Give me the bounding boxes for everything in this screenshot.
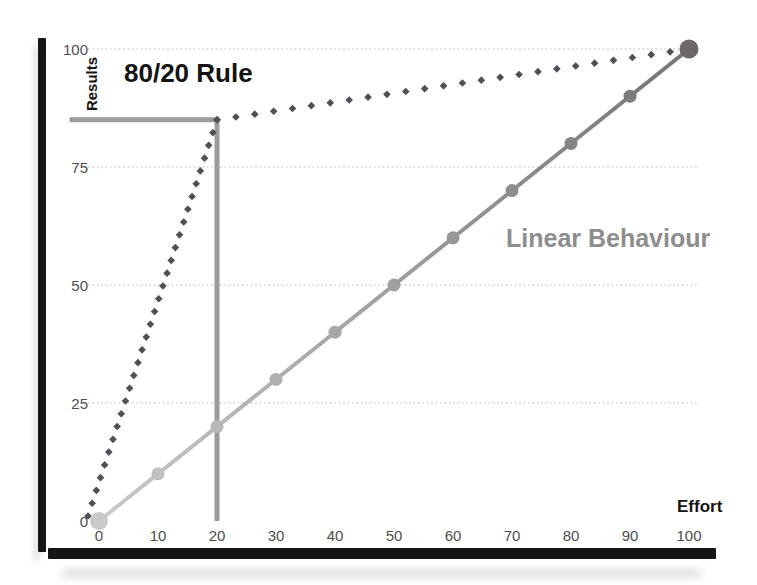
x-tick-label: 40 bbox=[327, 527, 344, 544]
chart-plot-area bbox=[0, 0, 757, 585]
x-axis-tick-labels: 0102030405060708090100 bbox=[0, 527, 757, 547]
y-tick-label: 50 bbox=[48, 277, 88, 294]
x-tick-label: 60 bbox=[445, 527, 462, 544]
x-tick-label: 50 bbox=[386, 527, 403, 544]
x-axis-title: Effort bbox=[677, 497, 722, 517]
x-tick-label: 80 bbox=[563, 527, 580, 544]
x-tick-label: 10 bbox=[150, 527, 167, 544]
linear-series-label: Linear Behaviour bbox=[506, 224, 710, 253]
x-tick-label: 90 bbox=[622, 527, 639, 544]
y-axis-title: Results bbox=[83, 57, 100, 111]
x-tick-label: 30 bbox=[268, 527, 285, 544]
x-axis-shadow bbox=[62, 570, 702, 577]
y-tick-label: 25 bbox=[48, 395, 88, 412]
x-tick-label: 70 bbox=[504, 527, 521, 544]
x-axis-bar bbox=[48, 548, 716, 559]
pareto-chart: 0255075100 0102030405060708090100 80/20 … bbox=[0, 0, 757, 585]
pareto-series-label: 80/20 Rule bbox=[124, 58, 253, 89]
x-tick-label: 0 bbox=[95, 527, 103, 544]
y-tick-label: 75 bbox=[48, 159, 88, 176]
y-tick-label: 100 bbox=[48, 41, 88, 58]
y-axis-bar bbox=[38, 38, 46, 552]
x-tick-label: 100 bbox=[676, 527, 701, 544]
x-tick-label: 20 bbox=[209, 527, 226, 544]
